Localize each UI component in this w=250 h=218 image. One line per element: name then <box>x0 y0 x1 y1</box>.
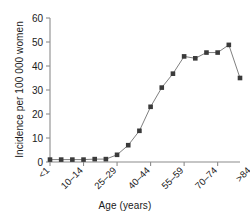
x-axis-tick-label: 55–59 <box>159 165 185 191</box>
y-axis-title: Incidence per 100 000 women <box>14 15 25 165</box>
y-axis-tick-label: 50 <box>32 37 44 48</box>
x-axis-title: Age (years) <box>0 200 250 211</box>
incidence-by-age-chart: 0102030405060<110–1425–2940–4455–5970–74… <box>0 0 250 218</box>
chart-plot-area: 0102030405060<110–1425–2940–4455–5970–74… <box>0 0 250 218</box>
y-axis-tick-label: 10 <box>32 133 44 144</box>
data-point-marker <box>148 105 153 110</box>
data-point-marker <box>159 85 164 90</box>
data-point-marker <box>215 50 220 55</box>
y-axis-tick-label: 20 <box>32 109 44 120</box>
x-axis-tick-label: 70–74 <box>193 165 219 191</box>
data-point-marker <box>115 153 120 158</box>
data-point-marker <box>48 157 53 162</box>
data-point-marker <box>137 129 142 134</box>
x-axis-tick-label: 10–14 <box>58 165 84 191</box>
data-point-marker <box>104 157 109 162</box>
x-axis-tick-label: >84 <box>233 165 250 184</box>
data-point-marker <box>70 157 75 162</box>
data-point-marker <box>227 43 232 48</box>
x-axis-tick-label: 40–44 <box>126 165 152 191</box>
data-point-marker <box>238 76 243 81</box>
data-point-marker <box>126 143 131 148</box>
y-axis-tick-label: 30 <box>32 85 44 96</box>
data-point-marker <box>92 157 97 162</box>
data-series-line <box>50 45 240 160</box>
data-point-marker <box>204 50 209 55</box>
data-point-marker <box>59 157 64 162</box>
y-axis-tick-label: 60 <box>32 13 44 24</box>
x-axis-tick-label: 25–29 <box>92 165 118 191</box>
y-axis-tick-label: 40 <box>32 61 44 72</box>
data-point-marker <box>193 56 198 61</box>
data-point-marker <box>171 71 176 76</box>
data-point-marker <box>182 54 187 59</box>
data-point-marker <box>81 157 86 162</box>
